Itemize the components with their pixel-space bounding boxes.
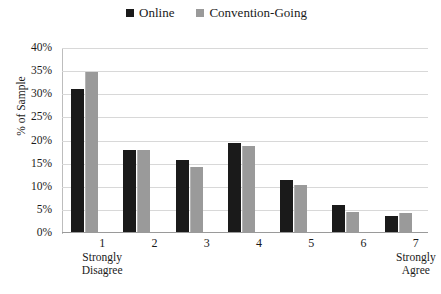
bar-online-5 <box>280 180 293 232</box>
y-axis-tick-label: 20% <box>0 135 52 147</box>
y-axis-tick-labels: 0%5%10%15%20%25%30%35%40% <box>0 48 58 233</box>
legend-label-convention-going: Convention-Going <box>209 6 307 19</box>
legend-swatch-icon-online <box>126 9 134 17</box>
y-axis-tick-label: 35% <box>0 65 52 77</box>
x-axis-tick-labels: 1StronglyDisagree234567StronglyAgree <box>62 236 428 292</box>
bar-convention-going-7 <box>399 213 412 232</box>
bar-online-1 <box>71 89 84 232</box>
x-axis-tick-caption-line1: Strongly <box>67 251 137 264</box>
bar-group <box>123 48 150 232</box>
y-axis-tick-label: 10% <box>0 181 52 193</box>
bar-convention-going-4 <box>242 146 255 232</box>
bar-online-7 <box>385 216 398 232</box>
bar-online-2 <box>123 150 136 232</box>
x-axis-tick-caption-line1: Strongly <box>381 251 441 264</box>
bar-online-6 <box>332 205 345 232</box>
bar-online-3 <box>176 160 189 232</box>
bar-group <box>71 48 98 232</box>
y-axis-tick-label: 15% <box>0 158 52 170</box>
bar-convention-going-6 <box>346 212 359 232</box>
x-axis-baseline <box>62 232 428 233</box>
bar-group <box>385 48 412 232</box>
plot-area <box>62 48 428 233</box>
y-axis-tick-label: 5% <box>0 204 52 216</box>
bar-convention-going-3 <box>190 167 203 232</box>
bar-group <box>332 48 359 232</box>
bar-online-4 <box>228 143 241 232</box>
x-axis-tick-caption-line2: Agree <box>381 264 441 277</box>
y-axis-tick-label: 40% <box>0 42 52 54</box>
x-axis-tick-number: 7 <box>381 236 441 251</box>
x-axis-tick-7: 7StronglyAgree <box>381 236 441 277</box>
x-axis-tick-caption-line2: Disagree <box>67 264 137 277</box>
legend-swatch-icon-convention-going <box>196 9 204 17</box>
bar-group <box>176 48 203 232</box>
chart-legend: Online Convention-Going <box>0 6 433 19</box>
bar-group <box>280 48 307 232</box>
legend-item-convention-going: Convention-Going <box>196 6 307 19</box>
legend-item-online: Online <box>126 6 174 19</box>
bar-convention-going-2 <box>137 150 150 232</box>
legend-label-online: Online <box>139 6 174 19</box>
y-axis-tick-label: 0% <box>0 227 52 239</box>
bar-convention-going-1 <box>85 72 98 232</box>
bar-group <box>228 48 255 232</box>
bar-convention-going-5 <box>294 185 307 232</box>
y-axis-tick-label: 30% <box>0 88 52 100</box>
y-axis-tick-label: 25% <box>0 111 52 123</box>
